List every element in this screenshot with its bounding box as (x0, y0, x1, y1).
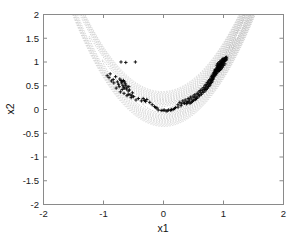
y-tick-label: 0 (34, 104, 39, 115)
y-tick-label: -1 (31, 151, 39, 162)
data-point (109, 72, 112, 75)
y-tick-labels: -2-1.5-1-0.500.511.52 (23, 9, 39, 210)
x-tick-label: 0 (161, 208, 166, 219)
contour-line (197, 13, 249, 95)
data-point (107, 76, 110, 79)
x-tick-label: -2 (39, 208, 47, 219)
x-tick-label: -1 (99, 208, 107, 219)
scatter-contour-figure: -2-1012 -2-1.5-1-0.500.511.52 x1 x2 (0, 0, 300, 239)
data-point (134, 60, 137, 63)
y-axis-title: x2 (4, 103, 16, 114)
y-tick-label: 1.5 (26, 33, 39, 44)
y-tick-label: 0.5 (26, 80, 39, 91)
data-point (151, 103, 154, 106)
data-point (119, 60, 122, 63)
data-point (114, 75, 117, 78)
data-point (124, 61, 127, 64)
plot-canvas: -2-1012 -2-1.5-1-0.500.511.52 x1 x2 (0, 0, 300, 239)
data-point (122, 92, 125, 95)
y-tick-label: -0.5 (23, 128, 39, 139)
contour-line (81, 12, 243, 96)
x-tick-label: 2 (281, 208, 286, 219)
data-point (179, 104, 182, 107)
data-points-layer (106, 56, 229, 113)
x-tick-labels: -2-1012 (39, 208, 286, 219)
y-tick-label: 1 (34, 56, 39, 67)
x-axis-title: x1 (157, 222, 168, 234)
contour-line (129, 12, 245, 103)
y-tick-label: -2 (31, 199, 39, 210)
y-tick-label: 2 (34, 9, 39, 20)
axes-layer: -2-1012 -2-1.5-1-0.500.511.52 (23, 9, 287, 219)
x-tick-label: 1 (221, 208, 226, 219)
contour-line (156, 12, 251, 112)
y-tick-label: -1.5 (23, 175, 39, 186)
